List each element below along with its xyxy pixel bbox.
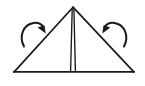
center-pole-right-edge [74, 9, 76, 72]
center-pole [71, 9, 76, 72]
triangle-left-side [14, 7, 73, 72]
triangle-right-side [73, 7, 134, 72]
figure-canvas [0, 0, 145, 86]
diagram-svg [0, 0, 145, 86]
center-pole-left-edge [71, 9, 73, 72]
left-rotation-arrow-head-icon [38, 25, 46, 33]
right-rotation-arrow-head-icon [102, 25, 110, 33]
left-rotation-arrow [22, 23, 46, 47]
